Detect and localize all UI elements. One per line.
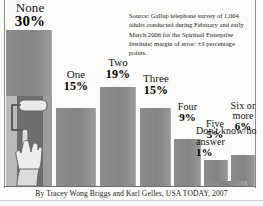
bar-dont-know [205,181,247,186]
byline-credit: By Tracey Wong Briggs and Karl Gelles, U… [0,189,263,198]
bar-one [56,108,96,186]
label-one-value: 15% [55,80,97,92]
bar-two [100,87,136,186]
label-six-or-more-name: Six or more [229,101,257,121]
label-none-name: None [6,1,54,14]
label-two: Two 19% [99,57,137,80]
bar-three [140,108,171,186]
label-dont-know-name: Don't know/no answer [196,126,258,147]
label-three-value: 15% [138,84,174,96]
label-one: One 15% [55,69,97,92]
hand-icon [6,96,52,186]
label-four-value: 9% [172,112,203,123]
label-three: Three 15% [138,73,174,96]
label-none-value: 30% [6,14,54,29]
source-note: Source: Gallup telephone survey of 1,004… [129,11,252,58]
label-none: None 30% [6,1,54,30]
label-two-value: 19% [99,68,137,80]
credit-divider [0,200,263,201]
label-dont-know: Don't know/no answer 1% [196,126,258,159]
infographic-bar-chart: None 30% One 15% Two 19% Three 15% Four … [0,0,263,206]
label-dont-know-value: 1% [196,147,258,159]
paint-roller-illustration [6,96,52,186]
label-four: Four 9% [172,102,203,123]
